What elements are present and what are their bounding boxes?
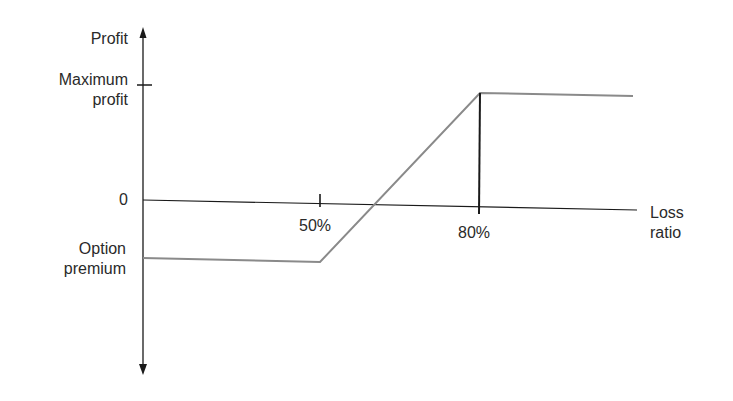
max-profit-label-line1: Maximum [20, 71, 128, 89]
payoff-line [143, 93, 633, 262]
option-premium-label-line2: premium [20, 260, 126, 278]
zero-label: 0 [60, 191, 128, 209]
y-axis-down-arrow-icon [139, 364, 147, 375]
x-tick-50-label: 50% [299, 217, 331, 235]
tick-80-percent-line [479, 93, 480, 214]
option-premium-label-line1: Option [20, 240, 126, 258]
x-axis-label-line1: Loss [650, 204, 684, 222]
x-axis-label-line2: ratio [650, 224, 681, 242]
x-tick-80-label: 80% [458, 224, 490, 242]
x-axis [143, 200, 637, 210]
max-profit-label-line2: profit [20, 91, 128, 109]
y-axis-label: Profit [60, 30, 128, 48]
y-axis-up-arrow-icon [140, 27, 147, 38]
